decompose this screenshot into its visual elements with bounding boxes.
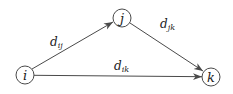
node-k-label: k — [207, 70, 215, 85]
node-i: i — [16, 66, 34, 84]
edge-i-to-k — [34, 75, 202, 76]
edge-label-d-ik: dik — [114, 59, 129, 74]
edge-i-to-j — [32, 22, 113, 69]
edge-label-d-jk: djk — [160, 17, 175, 32]
node-k: k — [202, 68, 220, 86]
node-i-label: i — [23, 68, 27, 83]
edge-label-d-ij: dij — [50, 35, 63, 50]
triangle-graph-diagram: dij djk dik i j k — [0, 0, 233, 94]
node-j: j — [113, 9, 131, 27]
